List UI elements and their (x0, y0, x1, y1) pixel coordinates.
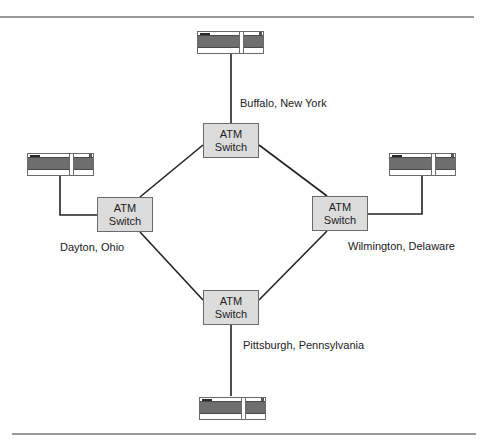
server-device-icon (199, 397, 266, 420)
atm-switch-buffalo: ATM Switch (203, 123, 259, 158)
link-device-wilmington (368, 176, 422, 214)
link-buffalo-dayton (140, 145, 203, 197)
atm-switch-wilmington: ATM Switch (312, 196, 368, 231)
connection-lines (0, 0, 486, 447)
switch-label-line2: Switch (215, 308, 247, 321)
link-dayton-pittsburgh (140, 232, 203, 300)
server-device-icon (27, 153, 94, 176)
switch-label-line2: Switch (324, 214, 356, 227)
location-label-dayton: Dayton, Ohio (60, 241, 124, 253)
switch-label-line1: ATM (114, 202, 136, 215)
switch-label-line1: ATM (329, 201, 351, 214)
location-label-wilmington: Wilmington, Delaware (348, 240, 455, 252)
location-label-pittsburgh: Pittsburgh, Pennsylvania (243, 339, 364, 351)
link-buffalo-wilmington (259, 145, 327, 196)
atm-switch-dayton: ATM Switch (97, 197, 153, 232)
switch-label-line1: ATM (220, 128, 242, 141)
server-device-icon (389, 153, 456, 176)
link-wilmington-pittsburgh (259, 231, 327, 300)
switch-label-line2: Switch (215, 141, 247, 154)
link-device-dayton (60, 176, 97, 215)
switch-label-line1: ATM (220, 295, 242, 308)
location-label-buffalo: Buffalo, New York (240, 97, 327, 109)
atm-switch-pittsburgh: ATM Switch (203, 290, 259, 325)
switch-label-line2: Switch (109, 215, 141, 228)
server-device-icon (197, 31, 264, 54)
